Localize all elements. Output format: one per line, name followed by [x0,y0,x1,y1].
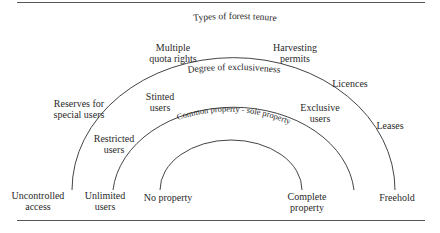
label-line: access [3,201,73,212]
arc-title-forest-tenure: Types of forest tenure [193,11,277,23]
label-line: Unlimited [78,190,132,201]
label-stinted-users: Stinted users [140,91,180,113]
label-line: Restricted [89,133,139,144]
svg-text:Types of forest tenure: Types of forest tenure [193,11,277,23]
label-complete-property: Complete property [282,191,332,213]
label-line: property [282,202,332,213]
label-line: users [140,102,180,113]
label-line: Exclusive [295,102,345,113]
label-line: special users [44,109,114,120]
label-reserves-special-users: Reserves for special users [44,98,114,120]
label-multiple-quota-rights: Multiple quota rights [138,42,208,64]
label-line: quota rights [138,53,208,64]
label-line: users [295,113,345,124]
label-uncontrolled-access: Uncontrolled access [3,190,73,212]
label-harvesting-permits: Harvesting permits [260,42,330,64]
label-line: permits [260,53,330,64]
label-line: Reserves for [44,98,114,109]
label-line: Complete [282,191,332,202]
inner-arc [160,140,302,190]
label-freehold: Freehold [372,192,422,203]
label-line: Uncontrolled [3,190,73,201]
label-leases: Leases [370,120,410,131]
label-line: users [78,201,132,212]
label-unlimited-users: Unlimited users [78,190,132,212]
label-no-property: No property [138,192,198,203]
arc-title-property: Common property - sole property [175,104,293,127]
label-exclusive-users: Exclusive users [295,102,345,124]
label-line: Harvesting [260,42,330,53]
label-line: Stinted [140,91,180,102]
svg-text:Common property - sole propert: Common property - sole property [175,104,293,127]
label-line: Multiple [138,42,208,53]
label-licences: Licences [325,78,375,89]
label-restricted-users: Restricted users [89,133,139,155]
label-line: users [89,144,139,155]
